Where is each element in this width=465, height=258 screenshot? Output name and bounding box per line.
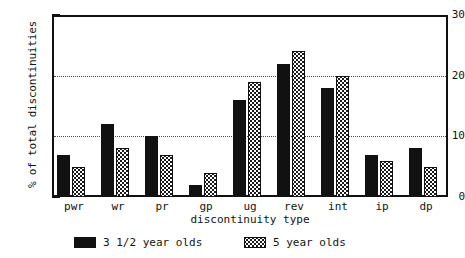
bar-wr-series-1 [101,124,114,197]
y-axis-title: % of total discontinuities [26,10,39,200]
bar-pr-series-2 [160,155,173,197]
x-tick-label-gp: gp [184,200,228,213]
x-tick-label-ip: ip [360,200,404,213]
legend-label-series-2: 5 year olds [273,236,346,249]
bars-layer [52,15,448,197]
x-tick-label-int: int [316,200,360,213]
legend-entry-series-2: 5 year olds [244,234,346,250]
bar-wr-series-2 [116,148,129,197]
bar-rev-series-1 [277,64,290,197]
legend-label-series-1: 3 1/2 year olds [103,236,202,249]
bar-gp-series-2 [204,173,217,197]
bar-int-series-1 [321,88,334,197]
x-tick-label-pwr: pwr [52,200,96,213]
bar-dp-series-1 [409,148,422,197]
legend: 3 1/2 year olds 5 year olds [52,234,448,252]
x-axis-title: discontinuity type [52,213,448,226]
bar-int-series-2 [336,76,349,197]
bar-pwr-series-1 [57,155,70,197]
x-tick-label-rev: rev [272,200,316,213]
x-tick-label-dp: dp [404,200,448,213]
bar-ip-series-1 [365,155,378,197]
bar-dp-series-2 [424,167,437,197]
bar-ug-series-2 [248,82,261,197]
bar-pr-series-1 [145,136,158,197]
legend-swatch-dotted-icon [244,237,266,248]
legend-entry-series-1: 3 1/2 year olds [74,234,202,250]
x-tick-label-wr: wr [96,200,140,213]
bar-rev-series-2 [292,51,305,197]
bar-gp-series-1 [189,185,202,197]
x-tick-label-ug: ug [228,200,272,213]
legend-swatch-solid-icon [74,237,96,248]
bar-ug-series-1 [233,100,246,197]
bar-pwr-series-2 [72,167,85,197]
bar-ip-series-2 [380,161,393,197]
x-tick-label-pr: pr [140,200,184,213]
bar-chart: % of total discontinuities 0102030 pwrwr… [0,0,465,258]
